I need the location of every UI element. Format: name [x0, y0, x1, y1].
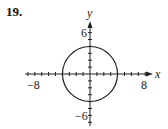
coordinate-graph: x y −8 8 6 −6: [0, 0, 168, 129]
x-axis-arrow-icon: [146, 72, 153, 77]
tick-label-y-min: −6: [75, 109, 88, 123]
y-axis-label: y: [86, 6, 93, 20]
tick-label-x-min: −8: [27, 78, 40, 92]
x-axis-label: x: [154, 67, 161, 81]
tick-label-y-max: 6: [81, 26, 87, 40]
tick-label-x-max: 8: [141, 78, 147, 92]
y-axis-arrow-icon: [88, 21, 93, 28]
